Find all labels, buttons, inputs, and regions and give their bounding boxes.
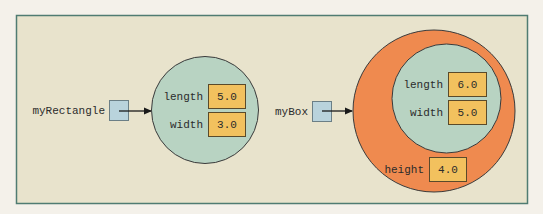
box-field-height-value: 4.0	[438, 164, 458, 176]
rectangle-field-width-value: 3.0	[217, 119, 237, 131]
rectangle-field-length-value: 5.0	[217, 91, 237, 103]
box-field-length-label: length	[403, 79, 443, 91]
box-field-length-value: 6.0	[458, 79, 478, 91]
object-reference-diagram: myRectangle length 5.0 width 3.0 myBox l…	[0, 0, 543, 214]
rectangle-field-length-label: length	[163, 91, 203, 103]
rectangle-object	[152, 57, 259, 164]
box-field-height-label: height	[384, 164, 424, 176]
box-variable-label: myBox	[275, 106, 308, 118]
rectangle-variable-label: myRectangle	[32, 105, 105, 117]
box-field-width-value: 5.0	[458, 107, 478, 119]
box-field-width-label: width	[410, 107, 443, 119]
box-inherited-rectangle-part	[392, 44, 501, 153]
rectangle-field-width-label: width	[170, 119, 203, 131]
